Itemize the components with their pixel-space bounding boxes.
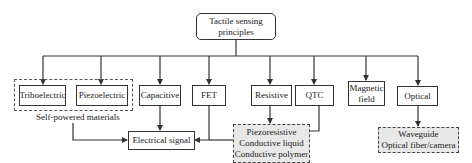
node-fet: FET — [192, 85, 226, 106]
node-qtc: QTC — [295, 85, 334, 106]
node-capacitive-label: Capacitive — [141, 90, 179, 101]
material-optical-fiber-camera: Optical fiber/camera — [381, 140, 455, 151]
resistive-materials-box: Piezoresistive Conductive liquid Conduct… — [233, 124, 310, 163]
node-piezoelectric: Piezoelectric — [76, 85, 128, 106]
root-label-line1: Tactile sensing — [209, 16, 263, 27]
node-capacitive: Capacitive — [139, 85, 181, 106]
self-powered-label: Self-powered materials — [36, 112, 120, 122]
node-triboelectric: Triboelectric — [19, 85, 66, 106]
node-fet-label: FET — [201, 90, 217, 101]
material-conductive-liquid: Conductive liquid — [239, 138, 304, 149]
material-waveguide: Waveguide — [398, 129, 438, 140]
node-qtc-label: QTC — [306, 90, 324, 101]
material-piezoresistive: Piezoresistive — [247, 127, 297, 138]
root-label-line2: principles — [218, 27, 254, 38]
node-piezoelectric-label: Piezoelectric — [79, 90, 125, 101]
optical-materials-box: Waveguide Optical fiber/camera — [378, 127, 459, 153]
material-conductive-polymer: Conductive polymer — [235, 149, 309, 160]
node-magnetic-label-line2: field — [358, 94, 375, 105]
node-triboelectric-label: Triboelectric — [19, 90, 65, 101]
electrical-signal-label: Electrical signal — [132, 135, 190, 146]
node-magnetic-field: Magnetic field — [348, 81, 385, 106]
node-resistive: Resistive — [251, 85, 292, 106]
node-electrical-signal: Electrical signal — [128, 131, 195, 150]
node-magnetic-label-line1: Magnetic — [350, 83, 384, 94]
node-optical-label: Optical — [404, 91, 431, 102]
root-node: Tactile sensing principles — [196, 13, 276, 40]
node-resistive-label: Resistive — [255, 90, 288, 101]
node-optical: Optical — [397, 86, 438, 106]
